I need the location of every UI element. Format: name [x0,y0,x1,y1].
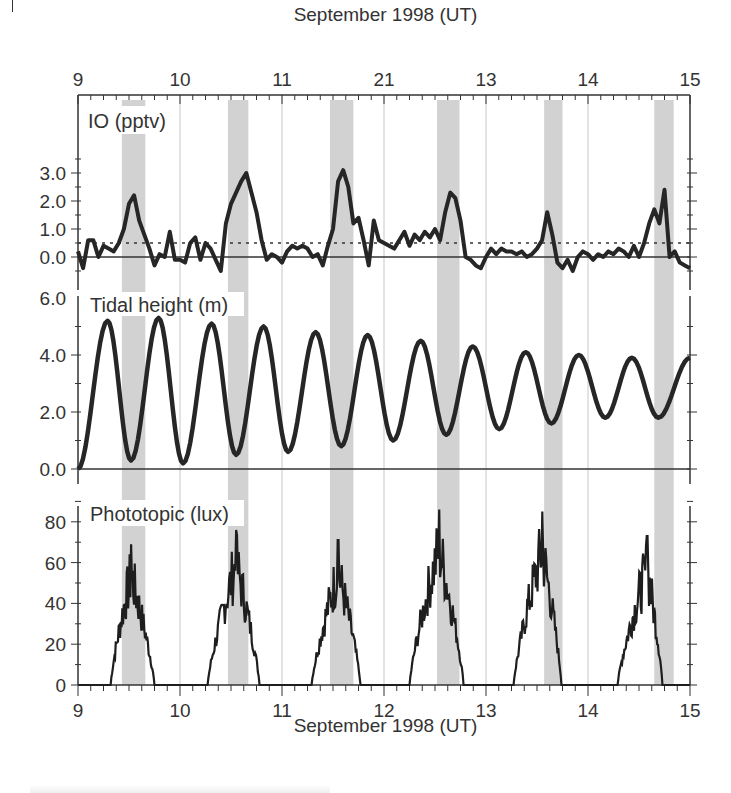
figure: September 1998 (UT) September 1998 (UT) … [0,0,731,793]
y-tick-label: 4.0 [40,345,66,366]
top-axis-tick-label: 9 [73,69,84,90]
y-tick-label: 3.0 [40,163,66,184]
y-tick-label: 6.0 [40,288,66,309]
y-tick-label: 0.0 [40,247,66,268]
y-tick-label: 20 [45,634,66,655]
y-tick-label: 40 [45,593,66,614]
y-tick-label: 0.0 [40,459,66,480]
top-axis-tick-label: 21 [373,69,394,90]
phototopic-panel-label: Phototopic (lux) [90,503,229,525]
y-tick-label: 0 [55,675,66,696]
y-tick-label: 2.0 [40,191,66,212]
top-axis-tick-label: 15 [679,69,700,90]
top-axis-tick-label: 10 [169,69,190,90]
tidal-panel-label: Tidal height (m) [90,294,228,316]
shaded-band [544,100,562,685]
y-tick-label: 80 [45,512,66,533]
caption-stub [30,785,330,793]
y-tick-label: 60 [45,553,66,574]
top-axis-tick-label: 11 [272,69,292,90]
plot-area: 910112113141591011121314150.01.02.03.00.… [0,0,731,793]
y-tick-label: 1.0 [40,219,66,240]
bottom-axis-title: September 1998 (UT) [0,715,731,737]
top-axis-tick-label: 14 [577,69,599,90]
top-axis-tick-label: 13 [475,69,496,90]
io-panel-label: IO (pptv) [88,110,166,132]
top-axis-title: September 1998 (UT) [0,4,731,26]
y-tick-label: 2.0 [40,402,66,423]
